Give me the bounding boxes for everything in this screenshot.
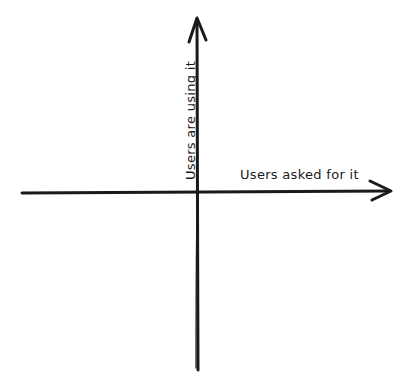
x-axis-label: Users asked for it (240, 168, 359, 181)
y-axis-label: Users are using it (184, 61, 197, 180)
x-axis-line (22, 191, 388, 193)
quadrant-diagram (0, 0, 416, 392)
x-axis (22, 181, 391, 200)
